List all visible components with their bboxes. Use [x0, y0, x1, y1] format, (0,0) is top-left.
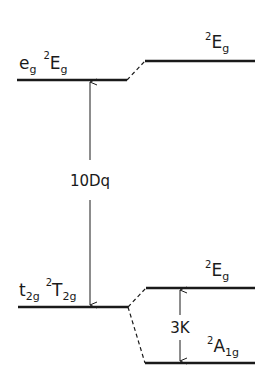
- label-lower-right-2A1g: 2A1g: [207, 335, 239, 359]
- label-t2g-2T2g: t2g2T2g: [19, 277, 76, 303]
- label-10Dq: 10Dq: [70, 172, 110, 190]
- connector-lower-up-dashed: [128, 288, 146, 307]
- connector-lower-down-dashed: [128, 307, 145, 363]
- label-3K: 3K: [170, 319, 191, 337]
- label-eg-2Eg: eg2Eg: [19, 50, 68, 76]
- connector-upper-dashed: [127, 61, 145, 80]
- label-lower-right-2Eg: 2Eg: [205, 259, 229, 283]
- energy-level-diagram: 10Dq 3K eg2Eg 2Eg t2g2T2g 2Eg 2A1g: [0, 0, 274, 365]
- label-upper-right-2Eg: 2Eg: [205, 31, 229, 55]
